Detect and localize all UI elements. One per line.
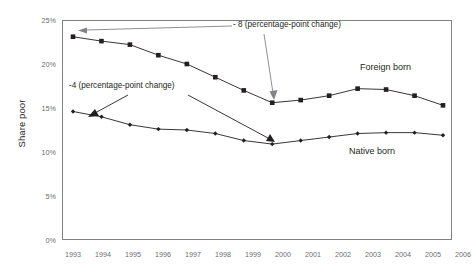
data-point	[99, 39, 104, 44]
foreign-born-label: Foreign born	[360, 62, 411, 72]
data-point	[441, 103, 446, 108]
data-point	[384, 87, 389, 92]
data-point	[241, 88, 246, 93]
annotation-native-change: -4 (percentage-point change)	[69, 81, 175, 90]
data-point	[355, 86, 360, 91]
data-point	[185, 62, 190, 67]
data-point	[71, 34, 76, 39]
data-point	[412, 93, 417, 98]
native-born-label: Native born	[349, 146, 395, 156]
plot-frame	[63, 21, 452, 240]
data-point	[128, 42, 133, 47]
data-point	[213, 75, 218, 80]
annotation-foreign-change: - 8 (percentage-point change)	[233, 20, 341, 29]
data-point	[298, 98, 303, 103]
data-point	[327, 93, 332, 98]
data-point	[270, 100, 275, 105]
data-point	[156, 53, 161, 58]
